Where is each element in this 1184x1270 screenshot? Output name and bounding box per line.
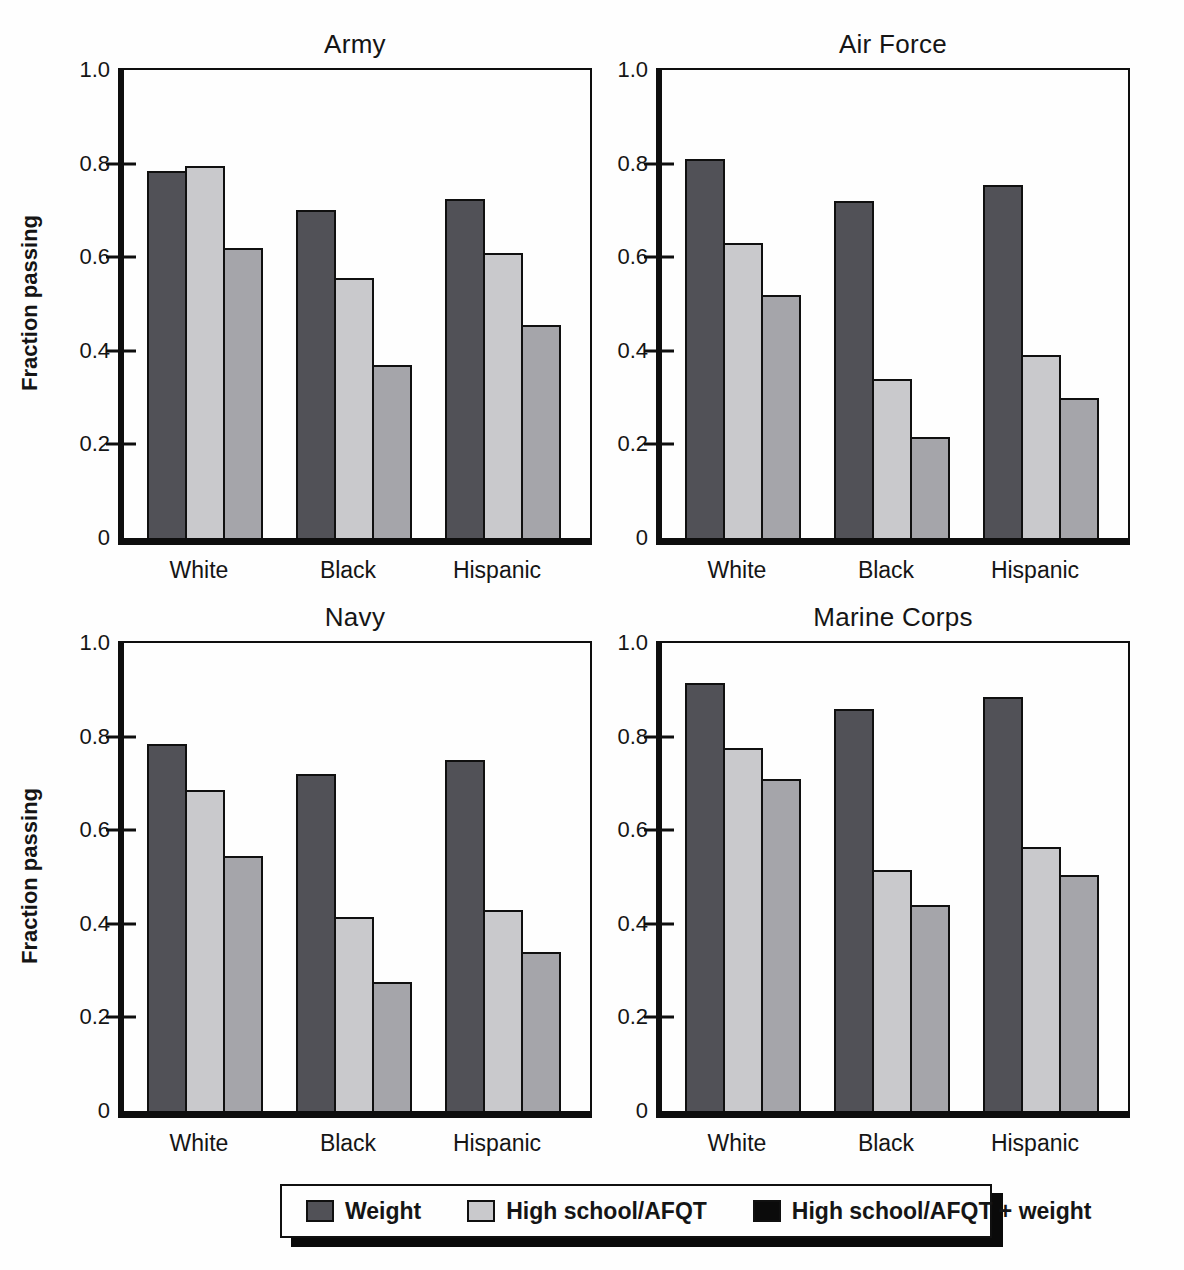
bar-group-white xyxy=(685,159,801,538)
bar-group-black xyxy=(834,709,950,1111)
bar-hispanic-series-0 xyxy=(445,760,485,1111)
x-axis-labels: WhiteBlackHispanic xyxy=(656,545,1130,589)
y-tick-mark xyxy=(644,829,674,832)
bar-black-series-0 xyxy=(834,201,874,538)
y-tick-mark xyxy=(106,443,136,446)
y-tick-mark xyxy=(644,922,674,925)
chart-title: Navy xyxy=(118,589,592,641)
category-label: Hispanic xyxy=(977,1130,1093,1157)
bar-group-hispanic xyxy=(445,760,561,1111)
bar-black-series-2 xyxy=(910,905,950,1111)
bar-white-series-0 xyxy=(685,683,725,1111)
y-tick-label: 1.0 xyxy=(617,632,648,654)
plot-area-navy: 1.00.80.60.40.20 xyxy=(118,641,592,1118)
category-label: White xyxy=(141,1130,257,1157)
y-tick-label: 0 xyxy=(636,527,648,549)
bar-black-series-1 xyxy=(334,278,374,538)
y-tick-mark xyxy=(644,349,674,352)
category-label: Black xyxy=(290,1130,406,1157)
bar-hispanic-series-2 xyxy=(521,952,561,1111)
bar-group-black xyxy=(296,210,412,538)
category-label: Black xyxy=(290,557,406,584)
legend-item-high-school-afqt-plus-weight: High school/AFQT + weight xyxy=(753,1198,1092,1225)
chart-title: Marine Corps xyxy=(656,589,1130,641)
bar-white-series-1 xyxy=(185,790,225,1111)
plot-column: Marine Corps 1.00.80.60.40.20 WhiteBlack… xyxy=(656,589,1130,1162)
bar-white-series-2 xyxy=(761,295,801,538)
y-tick-mark xyxy=(644,256,674,259)
figure-page: Fraction passing Army 1.00.80.60.40.20 W… xyxy=(0,0,1184,1270)
legend-label: Weight xyxy=(345,1198,421,1225)
bar-white-series-1 xyxy=(723,243,763,538)
x-axis-labels: WhiteBlackHispanic xyxy=(656,1118,1130,1162)
plot-column: Air Force 1.00.80.60.40.20 WhiteBlackHis… xyxy=(656,16,1130,589)
y-tick-mark xyxy=(106,349,136,352)
bar-white-series-0 xyxy=(685,159,725,538)
y-axis-column xyxy=(592,589,656,1162)
y-tick-label: 0 xyxy=(98,527,110,549)
y-tick-mark xyxy=(644,735,674,738)
y-tick-mark xyxy=(106,256,136,259)
bar-hispanic-series-1 xyxy=(1021,355,1061,538)
legend-item-weight: Weight xyxy=(306,1198,421,1225)
y-axis-column: Fraction passing xyxy=(0,16,118,589)
high-school-afqt-swatch xyxy=(467,1200,495,1222)
bar-hispanic-series-0 xyxy=(983,185,1023,538)
bar-black-series-1 xyxy=(334,917,374,1111)
bar-white-series-2 xyxy=(761,779,801,1111)
y-tick-mark xyxy=(644,1016,674,1019)
x-axis-labels: WhiteBlackHispanic xyxy=(118,545,592,589)
bar-black-series-2 xyxy=(372,365,412,538)
y-tick-mark xyxy=(644,162,674,165)
bar-group-black xyxy=(296,774,412,1111)
category-label: Hispanic xyxy=(439,1130,555,1157)
bar-white-series-2 xyxy=(223,856,263,1111)
y-axis-label: Fraction passing xyxy=(17,214,43,390)
y-tick-mark xyxy=(106,829,136,832)
legend: Weight High school/AFQT High school/AFQT… xyxy=(280,1184,992,1238)
charts-grid: Fraction passing Army 1.00.80.60.40.20 W… xyxy=(0,0,1184,1162)
bar-white-series-2 xyxy=(223,248,263,538)
bar-hispanic-series-2 xyxy=(1059,398,1099,538)
y-tick-mark xyxy=(106,1016,136,1019)
bar-hispanic-series-1 xyxy=(483,910,523,1111)
plot-column: Army 1.00.80.60.40.20 WhiteBlackHispanic xyxy=(118,16,592,589)
plot-area-army: 1.00.80.60.40.20 xyxy=(118,68,592,545)
y-tick-label: 1.0 xyxy=(79,632,110,654)
y-tick-label: 0 xyxy=(636,1100,648,1122)
y-tick-mark xyxy=(106,162,136,165)
bar-hispanic-series-2 xyxy=(521,325,561,538)
legend-item-high-school-afqt: High school/AFQT xyxy=(467,1198,707,1225)
y-tick-mark xyxy=(106,735,136,738)
bar-black-series-0 xyxy=(834,709,874,1111)
bar-black-series-2 xyxy=(910,437,950,538)
plot-area-marine-corps: 1.00.80.60.40.20 xyxy=(656,641,1130,1118)
bar-black-series-2 xyxy=(372,982,412,1111)
category-label: Black xyxy=(828,1130,944,1157)
legend-box: Weight High school/AFQT High school/AFQT… xyxy=(280,1184,992,1238)
y-tick-label: 0 xyxy=(98,1100,110,1122)
bar-hispanic-series-0 xyxy=(983,697,1023,1111)
bar-group-hispanic xyxy=(445,199,561,538)
y-tick-label: 1.0 xyxy=(79,59,110,81)
y-axis-column xyxy=(592,16,656,589)
bar-group-white xyxy=(685,683,801,1111)
bar-group-white xyxy=(147,744,263,1111)
y-axis-column: Fraction passing xyxy=(0,589,118,1162)
bar-hispanic-series-1 xyxy=(1021,847,1061,1111)
chart-title: Air Force xyxy=(656,16,1130,68)
y-tick-label: 1.0 xyxy=(617,59,648,81)
bar-white-series-1 xyxy=(723,748,763,1111)
chart-title: Army xyxy=(118,16,592,68)
category-label: White xyxy=(679,557,795,584)
bar-hispanic-series-0 xyxy=(445,199,485,538)
bar-white-series-1 xyxy=(185,166,225,538)
chart-panel-navy: Fraction passing Navy 1.00.80.60.40.20 W… xyxy=(0,589,592,1162)
category-label: Hispanic xyxy=(977,557,1093,584)
category-label: White xyxy=(679,1130,795,1157)
y-axis-label: Fraction passing xyxy=(17,787,43,963)
bar-group-hispanic xyxy=(983,697,1099,1111)
bar-group-black xyxy=(834,201,950,538)
bar-white-series-0 xyxy=(147,744,187,1111)
category-label: White xyxy=(141,557,257,584)
